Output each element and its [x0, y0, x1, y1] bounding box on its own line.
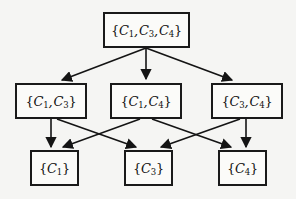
node-label-c1-c4: {C1, C4} [120, 94, 171, 107]
node-label-c3-c4: {C3, C4} [221, 94, 272, 107]
node-label-c4: {C4} [227, 161, 258, 174]
node-c1-c3-c4: {C1, C3, C4} [103, 12, 190, 48]
edge-c1c3-to-c3 [57, 119, 136, 147]
edge-top-to-c1c3 [62, 48, 146, 80]
node-c1: {C1} [30, 150, 79, 186]
node-label-c1-c3: {C1, C3} [25, 94, 76, 107]
hasse-diagram: {C1, C3, C4} {C1, C3} {C1, C4} {C3, C4} … [0, 0, 296, 199]
edge-c1c4-to-c1 [63, 119, 140, 147]
node-c4: {C4} [218, 150, 267, 186]
node-label-c1-c3-c4: {C1, C3, C4} [111, 23, 182, 36]
node-c3: {C3} [124, 150, 173, 186]
node-c1-c4: {C1, C4} [110, 83, 182, 119]
node-c3-c4: {C3, C4} [211, 83, 283, 119]
node-label-c1: {C1} [39, 161, 70, 174]
edge-c1c4-to-c4 [152, 119, 231, 147]
edge-top-to-c3c4 [146, 48, 232, 80]
node-c1-c3: {C1, C3} [15, 83, 87, 119]
edge-c3c4-to-c3 [161, 119, 240, 147]
node-label-c3: {C3} [133, 161, 164, 174]
